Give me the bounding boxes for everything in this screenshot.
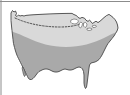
lake-superior-shape	[71, 19, 79, 24]
us-map-figure	[0, 0, 130, 95]
lake-huron-shape	[84, 23, 88, 28]
lake-ontario-shape	[92, 25, 97, 27]
map-canvas	[0, 0, 130, 95]
lake-erie-shape	[87, 28, 92, 31]
